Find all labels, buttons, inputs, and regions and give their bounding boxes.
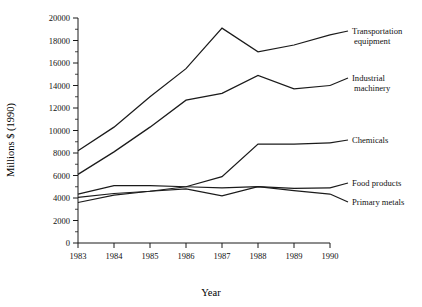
x-tick-label: 1985 bbox=[142, 251, 159, 261]
y-tick-label: 14000 bbox=[49, 81, 70, 91]
x-tick-label: 1988 bbox=[250, 251, 267, 261]
chart-canvas: 0200040006000800010000120001400016000180… bbox=[0, 0, 422, 307]
series-label: Food products bbox=[352, 178, 402, 188]
x-tick-label: 1983 bbox=[70, 251, 87, 261]
y-axis-title: Millions $ (1990) bbox=[5, 102, 17, 177]
series-label: Chemicals bbox=[352, 135, 389, 145]
series-label-line: Primary metals bbox=[352, 197, 405, 207]
series-label-line: Chemicals bbox=[352, 135, 389, 145]
series-label-line: Transportation bbox=[352, 26, 403, 36]
x-tick-label: 1984 bbox=[106, 251, 124, 261]
series-label-line: Food products bbox=[352, 178, 402, 188]
y-tick-label: 0 bbox=[66, 238, 70, 248]
y-tick-label: 12000 bbox=[49, 103, 70, 113]
series-label-line: Industrial bbox=[352, 73, 386, 83]
x-tick-label: 1989 bbox=[286, 251, 303, 261]
series-label-line: equipment bbox=[354, 36, 391, 46]
y-tick-label: 2000 bbox=[53, 216, 70, 226]
x-tick-label: 1987 bbox=[214, 251, 231, 261]
x-tick-label: 1986 bbox=[178, 251, 195, 261]
series-label: Primary metals bbox=[352, 197, 405, 207]
line-chart: 0200040006000800010000120001400016000180… bbox=[0, 0, 422, 307]
x-tick-label: 1990 bbox=[322, 251, 339, 261]
y-tick-label: 4000 bbox=[53, 193, 70, 203]
x-axis-title: Year bbox=[201, 287, 221, 298]
y-tick-label: 20000 bbox=[49, 13, 70, 23]
y-tick-label: 16000 bbox=[49, 58, 70, 68]
y-tick-label: 8000 bbox=[53, 148, 70, 158]
y-tick-label: 6000 bbox=[53, 171, 70, 181]
series-label-line: machinery bbox=[354, 83, 391, 93]
y-tick-label: 10000 bbox=[49, 126, 70, 136]
y-tick-label: 18000 bbox=[49, 36, 70, 46]
